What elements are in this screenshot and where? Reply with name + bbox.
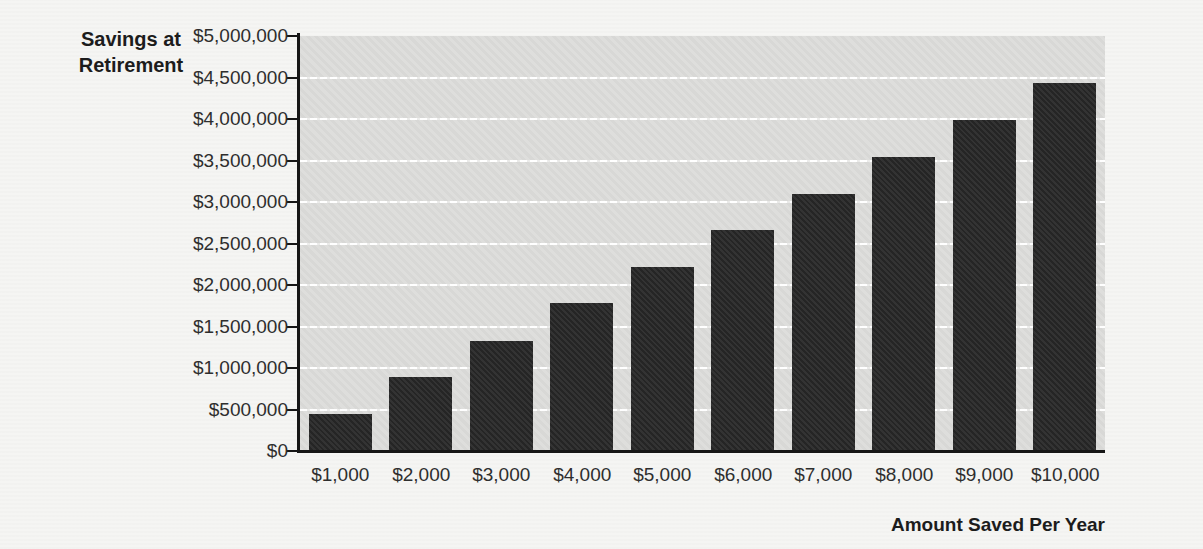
y-axis-tick	[287, 367, 300, 369]
x-axis-tick-label: $10,000	[1025, 464, 1106, 486]
x-axis-tick-label: $1,000	[300, 464, 381, 486]
x-axis-tick-label: $9,000	[944, 464, 1025, 486]
y-axis-tick	[287, 201, 300, 203]
y-axis-tick-label: $1,000,000	[150, 358, 288, 378]
y-axis-tick	[287, 35, 300, 37]
bar-2000	[389, 377, 452, 451]
y-axis-tick-label: $1,500,000	[150, 317, 288, 337]
bar-7000	[792, 194, 855, 451]
y-axis-tick	[287, 160, 300, 162]
x-axis-line	[297, 450, 1105, 453]
y-axis-tick-label: $2,000,000	[150, 275, 288, 295]
bar-6000	[711, 230, 774, 451]
y-axis-tick-label: $2,500,000	[150, 234, 288, 254]
y-axis-tick	[287, 450, 300, 452]
y-axis-tick	[287, 326, 300, 328]
y-axis-tick-label: $5,000,000	[150, 26, 288, 46]
bar-5000	[631, 267, 694, 451]
y-axis-tick-label: $3,000,000	[150, 192, 288, 212]
y-axis-tick	[287, 243, 300, 245]
bar-10000	[1033, 83, 1096, 451]
y-axis-tick	[287, 284, 300, 286]
bar-9000	[953, 120, 1016, 451]
bar-1000	[309, 414, 372, 451]
y-axis-tick	[287, 77, 300, 79]
y-axis-tick-label: $3,500,000	[150, 151, 288, 171]
x-axis-tick-label: $7,000	[783, 464, 864, 486]
x-axis-tick-label: $8,000	[864, 464, 945, 486]
x-axis-tick-label: $4,000	[542, 464, 623, 486]
y-axis-tick	[287, 409, 300, 411]
y-axis-tick-label: $4,500,000	[150, 68, 288, 88]
x-axis-tick-label: $6,000	[703, 464, 784, 486]
gridline	[300, 77, 1105, 79]
bar-4000	[550, 303, 613, 451]
savings-bar-chart: Savings at Retirement $5,000,000$4,500,0…	[0, 0, 1203, 549]
y-axis-tick-label: $0	[150, 441, 288, 461]
bar-8000	[872, 157, 935, 451]
bar-3000	[470, 341, 533, 451]
x-axis-tick-label: $2,000	[381, 464, 462, 486]
page: Savings at Retirement $5,000,000$4,500,0…	[0, 0, 1203, 549]
x-axis-tick-label: $3,000	[461, 464, 542, 486]
x-axis-title: Amount Saved Per Year	[805, 514, 1105, 536]
y-axis-tick-label: $500,000	[150, 400, 288, 420]
y-axis-tick	[287, 118, 300, 120]
y-axis-tick-label: $4,000,000	[150, 109, 288, 129]
x-axis-tick-label: $5,000	[622, 464, 703, 486]
